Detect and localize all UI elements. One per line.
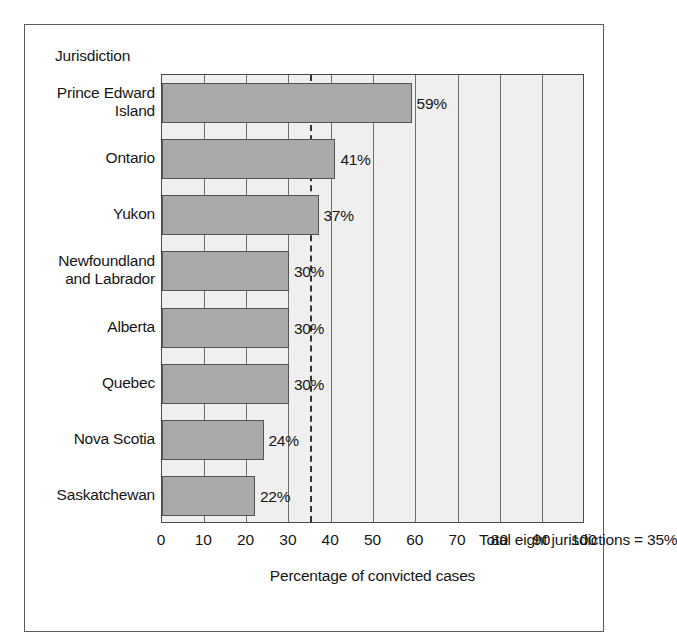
bar[interactable] [162,139,335,179]
bar-value-label: 24% [269,433,299,449]
bar[interactable] [162,251,289,291]
plot-area: 59%41%37%30%30%30%24%22% Total eight jur… [161,74,584,523]
bar-row: 30% [162,251,583,291]
y-axis-title: Jurisdiction [55,47,130,65]
bar[interactable] [162,83,412,123]
x-tick-label: 0 [157,531,166,549]
x-tick-label: 50 [364,531,381,549]
category-label: Saskatchewan [57,486,155,504]
bar-row: 24% [162,420,583,460]
category-label: Quebec [102,374,155,392]
x-tick-label: 80 [491,531,508,549]
x-tick-label: 30 [279,531,296,549]
bar[interactable] [162,308,289,348]
gridline-100 [585,75,586,522]
x-tick-label: 100 [571,531,597,549]
x-tick-label: 40 [322,531,339,549]
x-tick-label: 20 [237,531,254,549]
category-label: Newfoundland and Labrador [58,252,155,288]
bar-value-label: 37% [324,208,354,224]
x-tick-label: 90 [533,531,550,549]
x-tick-label: 70 [448,531,465,549]
bar[interactable] [162,364,289,404]
bar-value-label: 59% [417,96,447,112]
category-label: Prince Edward Island [57,84,155,120]
bar-value-label: 30% [294,377,324,393]
category-label: Alberta [107,318,155,336]
bar-row: 30% [162,308,583,348]
bar-value-label: 22% [260,489,290,505]
x-tick-label: 60 [406,531,423,549]
bar-row: 41% [162,139,583,179]
category-label: Nova Scotia [74,430,155,448]
bar-row: 37% [162,195,583,235]
bar-value-label: 30% [294,264,324,280]
bar[interactable] [162,420,264,460]
bar-value-label: 41% [340,152,370,168]
bar-row: 59% [162,83,583,123]
bar[interactable] [162,476,255,516]
x-tick-label: 10 [195,531,212,549]
bar-value-label: 30% [294,321,324,337]
category-label: Ontario [106,149,155,167]
category-label: Yukon [113,205,155,223]
bar-row: 30% [162,364,583,404]
bar-row: 22% [162,476,583,516]
bar[interactable] [162,195,319,235]
x-axis-title: Percentage of convicted cases [161,567,584,585]
